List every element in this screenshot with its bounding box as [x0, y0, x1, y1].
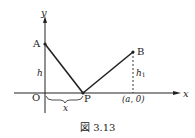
segment-AP	[45, 44, 83, 93]
point-A	[43, 42, 46, 45]
x-distance-brace	[46, 96, 83, 103]
height-h-label: h	[37, 68, 43, 78]
x-axis-label: x	[183, 88, 189, 99]
origin-label: O	[32, 92, 40, 103]
figure-caption: 図 3.13	[80, 122, 115, 133]
y-axis-label: y	[40, 7, 47, 18]
x-axis-arrow-icon	[173, 91, 181, 95]
a-coordinate-label: (a, 0)	[122, 94, 145, 104]
point-P-label: P	[84, 93, 91, 104]
segment-PB	[83, 52, 133, 93]
height-h1-label: h1	[136, 68, 146, 78]
point-B-label: B	[137, 46, 144, 57]
x-distance-label: x	[63, 103, 68, 113]
point-A-label: A	[32, 38, 41, 49]
point-B	[131, 50, 134, 53]
reflection-diagram: y x O A P B h h1 x (a, 0) 図 3.13	[0, 0, 195, 138]
